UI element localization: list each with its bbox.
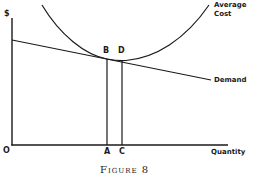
average-cost-curve <box>42 5 209 61</box>
figure-caption: Figure 8 <box>100 164 149 173</box>
demand-label: Demand <box>214 77 247 84</box>
point-A-label: A <box>104 148 110 156</box>
x-axis-label: Quantity <box>211 149 245 156</box>
y-axis-label: $ <box>4 10 10 18</box>
point-C-label: C <box>119 148 125 156</box>
point-D-label: D <box>118 47 125 55</box>
origin-label: O <box>3 147 10 155</box>
point-B-label: B <box>103 47 109 55</box>
average-cost-label-line1: Average <box>214 2 246 9</box>
average-cost-label-line2: Cost <box>214 11 231 18</box>
